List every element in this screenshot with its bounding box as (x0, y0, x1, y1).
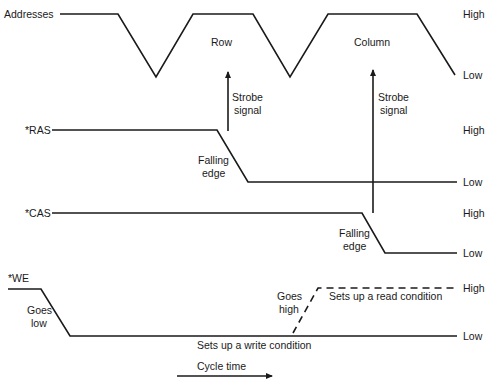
we-goes-high-line1: Goes (277, 290, 302, 302)
ras-label: *RAS (25, 124, 51, 136)
ras-low-label: Low (463, 176, 483, 188)
cas-high-label: High (463, 207, 485, 219)
ras-high-label: High (463, 124, 485, 136)
strobe2-label-line1: Strobe (378, 91, 409, 103)
ras-falling-edge-line1: Falling (198, 154, 229, 166)
addresses-waveform (60, 14, 455, 77)
addresses-low-label: Low (463, 69, 483, 81)
timing-diagram: Addresses *RAS *CAS *WE High Low High Lo… (0, 0, 491, 381)
we-low-label: Low (463, 330, 483, 342)
cas-low-label: Low (463, 247, 483, 259)
cas-falling-edge-line2: edge (343, 240, 367, 252)
we-high-label: High (463, 282, 485, 294)
strobe1-label-line2: signal (234, 104, 261, 116)
read-condition-label: Sets up a read condition (329, 290, 442, 302)
ras-falling-edge-line2: edge (202, 167, 226, 179)
addresses-label: Addresses (4, 8, 54, 20)
we-goes-low-line2: low (31, 317, 47, 329)
cas-falling-edge-line1: Falling (339, 227, 370, 239)
row-label: Row (211, 36, 232, 48)
write-condition-label: Sets up a write condition (197, 339, 312, 351)
strobe2-label-line2: signal (380, 104, 407, 116)
we-label: *WE (8, 272, 29, 284)
cycle-time-label: Cycle time (197, 360, 246, 372)
we-goes-high-line2: high (279, 303, 299, 315)
ras-waveform (52, 130, 457, 182)
strobe1-label-line1: Strobe (232, 91, 263, 103)
cas-label: *CAS (25, 207, 51, 219)
addresses-high-label: High (463, 8, 485, 20)
we-goes-low-line1: Goes (27, 304, 52, 316)
cas-waveform (52, 213, 457, 253)
column-label: Column (354, 36, 390, 48)
